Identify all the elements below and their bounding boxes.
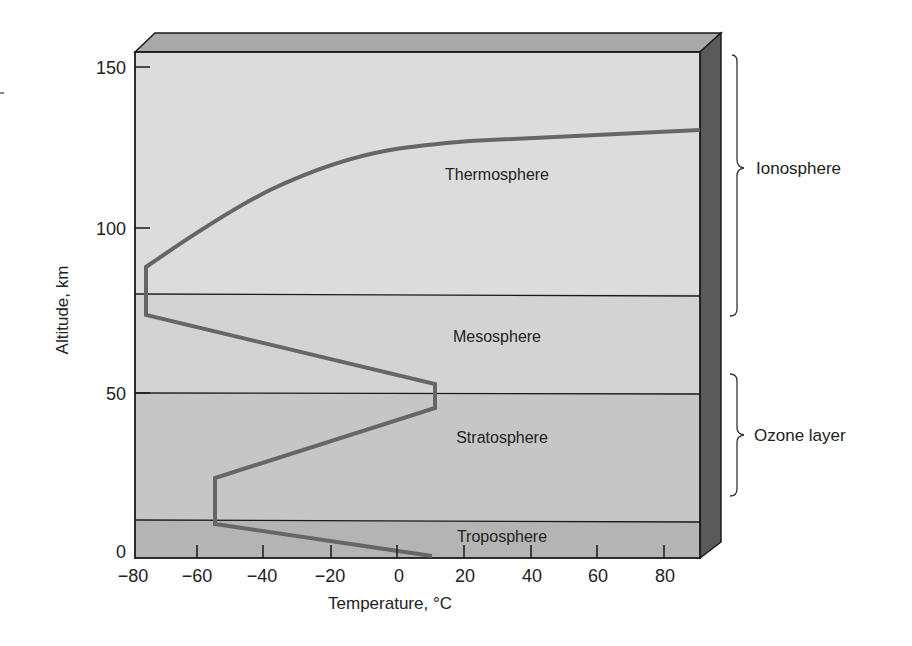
y-tick-0: 0	[116, 542, 126, 562]
y-tick-100: 100	[96, 219, 126, 239]
x-tick-80: 80	[655, 566, 675, 586]
label-ozone-layer: Ozone layer	[754, 426, 846, 445]
label-ionosphere: Ionosphere	[756, 159, 841, 178]
thermosphere-band	[135, 52, 700, 294]
label-thermosphere: Thermosphere	[445, 166, 549, 183]
y-tick-50: 50	[106, 384, 126, 404]
x-tick-neg80: −80	[118, 566, 149, 586]
x-tick-neg60: −60	[182, 566, 213, 586]
box-side-face	[700, 33, 721, 558]
label-stratosphere: Stratosphere	[456, 429, 548, 446]
x-tick-20: 20	[455, 566, 475, 586]
x-tick-0: 0	[394, 566, 404, 586]
y-axis-label: Altitude, km	[53, 266, 72, 355]
label-troposphere: Troposphere	[457, 528, 547, 545]
ozone-brace	[730, 374, 744, 496]
ionosphere-brace	[730, 55, 744, 316]
label-mesosphere: Mesosphere	[453, 328, 541, 345]
atmosphere-chart: 150 100 50 0 Altitude, km −80 −60 −40 −2…	[0, 0, 912, 646]
x-axis-label: Temperature, °C	[328, 594, 452, 613]
x-tick-40: 40	[522, 566, 542, 586]
box-top-face	[135, 33, 721, 52]
x-tick-60: 60	[588, 566, 608, 586]
y-tick-150: 150	[96, 58, 126, 78]
x-tick-neg20: −20	[315, 566, 346, 586]
x-tick-neg40: −40	[247, 566, 278, 586]
